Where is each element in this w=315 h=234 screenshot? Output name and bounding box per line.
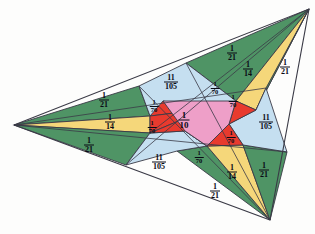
triangle-area-diagram: 1101701701701701701701110511105111051211… [0, 0, 315, 234]
triangle-dissection-svg [0, 0, 315, 234]
